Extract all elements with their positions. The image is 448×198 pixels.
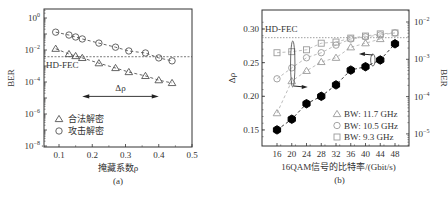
data-point (142, 72, 150, 78)
data-point (347, 66, 354, 74)
legend-label: BW: 11.7 GHz (344, 109, 398, 119)
y-tick-label: 0.25 (243, 58, 259, 68)
x-tick-label: 0.1 (53, 150, 64, 160)
legend-label: BW: 9.3 GHz (344, 132, 393, 142)
data-point (52, 45, 60, 51)
y-tick-label: 10−2 (25, 44, 40, 55)
series-line-1 (277, 39, 380, 113)
y-tick-label: 0.20 (243, 91, 259, 101)
y-right-tick-label: 10−3 (414, 53, 429, 64)
x-tick-label: 48 (391, 149, 401, 159)
x-axis-label: 16QAM信号的比特率/(Gbit/s) (281, 161, 396, 172)
data-point (303, 55, 309, 61)
data-point (52, 29, 58, 35)
y-tick-label: 10−4 (25, 76, 40, 87)
legend-marker (334, 134, 340, 140)
y-right-tick-label: 10−2 (414, 16, 429, 27)
delta-rho-label: Δρ (115, 83, 126, 93)
y-tick-label: 10−8 (25, 140, 40, 151)
data-point (332, 54, 340, 60)
panel-caption: (a) (113, 176, 123, 186)
legend-marker (334, 122, 340, 128)
hd-fec-label: HD-FEC (265, 24, 298, 34)
data-point (72, 34, 78, 40)
legend-label: 攻击解密 (68, 125, 104, 136)
data-point (79, 36, 85, 42)
legend-label: 合法解密 (68, 113, 104, 124)
data-point (391, 40, 398, 48)
plot-frame-a (44, 9, 192, 147)
legend: BW: 11.7 GHzBW: 10.5 GHzBW: 9.3 GHz (333, 109, 398, 142)
y-right-tick-label: 10−4 (414, 91, 429, 102)
x-tick-label: 44 (376, 149, 386, 159)
x-tick-label: 32 (332, 149, 341, 159)
figure: 10010−210−410−610−80.10.20.30.40.5BER掩藏系… (0, 0, 448, 198)
legend-marker (333, 110, 341, 116)
data-point (303, 100, 310, 108)
data-point (78, 54, 86, 60)
x-tick-label: 16 (273, 149, 283, 159)
x-tick-label: 0.4 (153, 150, 165, 160)
data-point (377, 56, 384, 64)
x-tick-label: 40 (361, 149, 371, 159)
x-tick-label: 28 (317, 149, 327, 159)
legend: 合法解密攻击解密 (55, 113, 104, 136)
legend-label: BW: 10.5 GHz (344, 121, 398, 131)
data-point (65, 50, 73, 56)
y-tick-label: 0.15 (243, 125, 259, 135)
y-axis-label-left: Δρ (227, 72, 237, 83)
y-tick-label: 100 (28, 12, 40, 23)
x-axis-label: 掩藏系数ρ (98, 162, 139, 173)
data-point (169, 58, 175, 64)
x-tick-label: 20 (287, 149, 297, 159)
arrow-head-left-icon (359, 52, 365, 56)
data-point (318, 92, 325, 100)
y-axis-label: BER (6, 69, 16, 87)
group-ellipse (371, 54, 375, 66)
group-ellipse (291, 41, 295, 87)
x-tick-label: 36 (346, 149, 356, 159)
y-right-tick-label: 10−5 (414, 128, 429, 139)
panel-b-chart: 0.150.200.250.3010−510−410−310−216202428… (227, 10, 448, 185)
hd-fec-label: HD-FEC (46, 60, 79, 70)
y-axis-label-right: BER (439, 69, 448, 87)
data-point (273, 126, 280, 134)
data-point (332, 81, 339, 89)
y-tick-label: 10−6 (25, 108, 40, 119)
panel-caption: (b) (334, 175, 345, 185)
x-tick-label: 24 (302, 149, 312, 159)
panel-a-chart: 10010−210−410−610−80.10.20.30.40.5BER掩藏系… (6, 9, 198, 186)
arrow-head-right-icon (152, 94, 159, 98)
x-tick-label: 0.3 (120, 150, 132, 160)
arrow-head-right-icon (302, 85, 308, 89)
data-point (288, 115, 295, 123)
legend-marker (55, 115, 63, 121)
data-point (362, 63, 369, 71)
x-tick-label: 0.5 (186, 150, 198, 160)
x-tick-label: 0.2 (87, 150, 98, 160)
y-tick-label: 0.30 (243, 24, 259, 34)
legend-marker (56, 128, 62, 134)
data-point (168, 79, 176, 85)
arrow-head-left-icon (82, 94, 89, 98)
data-point (112, 64, 120, 70)
data-point (95, 60, 103, 66)
